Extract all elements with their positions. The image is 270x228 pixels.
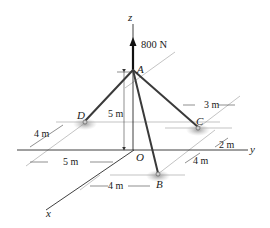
force-arrow-head — [130, 37, 137, 46]
point-d-label: D — [76, 109, 85, 121]
point-o-label: O — [136, 151, 144, 163]
dim-d-y-offset: 5 m — [63, 156, 79, 167]
point-b-label: B — [156, 178, 163, 190]
point-c-label: C — [196, 115, 204, 127]
tripod-diagram: z 800 N A D C B O y x 5 m 4 m 5 m 4 m 4 … — [0, 0, 270, 228]
x-axis-label: x — [45, 207, 51, 219]
dim-c-y-offset: 3 m — [204, 99, 220, 110]
dim-b-y-offset: 4 m — [108, 180, 124, 191]
point-a-label: A — [136, 63, 144, 75]
dim-d-x-offset: 4 m — [34, 128, 50, 139]
member-ac — [133, 70, 198, 127]
dim-b-x-offset: 4 m — [193, 155, 209, 166]
dim-c-x-offset: 2 m — [219, 139, 235, 150]
dim-height-a: 5 m — [108, 108, 124, 119]
support-b — [156, 172, 160, 176]
z-axis-label: z — [127, 11, 133, 23]
y-axis-label: y — [249, 143, 255, 155]
force-label: 800 N — [141, 39, 167, 50]
